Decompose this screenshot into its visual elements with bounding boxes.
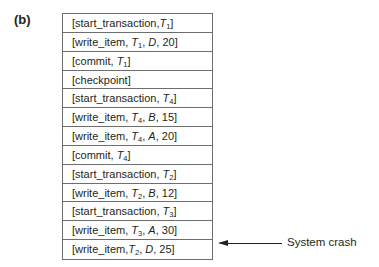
log-entry: [commit, T1]	[63, 52, 212, 71]
log-entry: [start_transaction, T2]	[63, 165, 212, 184]
figure-label: (b)	[14, 12, 31, 27]
log-entry: [write_item,T2, D, 25]	[63, 240, 212, 259]
log-entry: [start_transaction, T4]	[63, 89, 212, 108]
log-entry: [start_transaction,T1]	[63, 14, 212, 33]
log-entry: [write_item, T3, A, 30]	[63, 221, 212, 240]
system-crash-label: System crash	[287, 236, 357, 248]
log-entry: [commit, T4]	[63, 146, 212, 165]
log-entry: [checkpoint]	[63, 71, 212, 90]
system-log-table: [start_transaction,T1][write_item, T1, D…	[62, 13, 213, 260]
log-entry: [start_transaction, T3]	[63, 202, 212, 221]
log-entry: [write_item, T4, A, 20]	[63, 127, 212, 146]
log-entry: [write_item, T1, D, 20]	[63, 33, 212, 52]
crash-pointer-line	[220, 243, 282, 244]
log-entry: [write_item, T4, B, 15]	[63, 108, 212, 127]
log-entry: [write_item, T2, B, 12]	[63, 184, 212, 203]
